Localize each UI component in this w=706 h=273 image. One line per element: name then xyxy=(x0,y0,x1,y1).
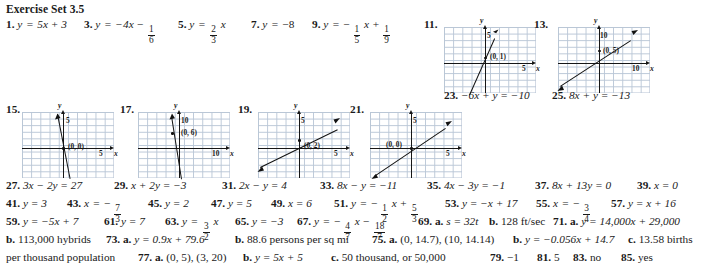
answer-item-7: 7. y = −8 xyxy=(251,18,294,30)
fraction-denominator: 3 xyxy=(411,214,418,225)
answer-item-47: 47. y = 5 xyxy=(211,197,252,209)
answer-text: y = −5x + 7 xyxy=(23,215,79,227)
answer-text: −1 xyxy=(507,251,519,263)
answer-item-79: 79. −1 xyxy=(490,251,519,263)
answer-text: y = 5x + 5 xyxy=(255,251,303,263)
problem-part: b. xyxy=(6,233,15,245)
x-axis-tick-label: 10 xyxy=(632,64,639,73)
equation-tail: x xyxy=(213,215,218,227)
y-axis-tick-label: 10 xyxy=(600,31,607,40)
problem-number: 1. xyxy=(6,18,14,30)
answer-item-69b: b. 128 ft/sec xyxy=(489,215,545,227)
answer-text: y = 0.9x + 79.6 xyxy=(134,233,204,245)
problem-number: 27. xyxy=(6,179,20,191)
answer-item-77c: c. 50 thousand, or 50,000 xyxy=(331,251,446,263)
intercept-point xyxy=(410,147,413,150)
answer-item-49: 49. x = 6 xyxy=(271,197,312,209)
equation-tail: x xyxy=(221,18,226,30)
problem-number: 35. xyxy=(427,179,441,191)
graph-label: 13. xyxy=(534,18,548,30)
answer-text: 8x + y = −13 xyxy=(569,89,630,101)
answer-text: 128 ft/sec xyxy=(501,215,545,227)
fraction-numerator: 2 xyxy=(210,25,217,34)
problem-number: 9. xyxy=(312,18,320,30)
answer-text: y = x + 16 xyxy=(628,197,676,209)
answer-key-page: Exercise Set 3.5 1. y = 5x + 3 3. y = −4… xyxy=(0,0,706,273)
intercept-point xyxy=(484,57,487,60)
fraction-numerator: 1 xyxy=(354,25,361,34)
answer-text: yes xyxy=(638,251,653,263)
fraction-numerator: 5 xyxy=(411,204,418,213)
answer-text: y = 14,000x + 29,000 xyxy=(581,215,680,227)
line-arrow-icon xyxy=(167,113,178,124)
answer-item-61: 61. y = 7 xyxy=(104,215,145,227)
equation-lhs: y xyxy=(351,197,356,209)
problem-number: 75. a. xyxy=(372,233,397,245)
equation-tail: x − xyxy=(355,215,370,227)
answer-item-53: 53. y = −x + 17 xyxy=(445,197,517,209)
answer-item-3: 3. y = −4x − 1 6 xyxy=(84,18,156,46)
answer-text: x = 0 xyxy=(654,179,678,191)
problem-number: 39. xyxy=(637,179,651,191)
answer-text: 4x − 3y = −1 xyxy=(444,179,505,191)
problem-number: 5. xyxy=(178,18,186,30)
fraction-denominator: 9 xyxy=(383,35,390,46)
answer-text: 8x + 13y = 0 xyxy=(552,179,611,191)
answer-item-35: 35. 4x − 3y = −1 xyxy=(427,179,505,191)
graph-label: 21. xyxy=(350,103,364,115)
answer-item-37: 37. 8x + 13y = 0 xyxy=(535,179,611,191)
problem-number: 31. xyxy=(222,179,236,191)
answer-text: y = 2 xyxy=(165,197,189,209)
answer-text: x + 2y = −3 xyxy=(131,179,187,191)
x-axis-tick-label: 5 xyxy=(99,149,103,158)
answer-item-65: 65. y = −3 xyxy=(235,215,284,227)
equation-tail: x + xyxy=(392,197,407,209)
answer-item-45: 45. y = 2 xyxy=(148,197,189,209)
fraction-numerator: 3 xyxy=(583,204,590,213)
x-axis xyxy=(444,63,532,64)
answer-text: 13.58 births xyxy=(639,233,693,245)
problem-part: b. xyxy=(513,233,522,245)
intercept-label: (0, 0) xyxy=(68,142,84,151)
graph-label: 15. xyxy=(6,103,20,115)
equation-tail: x + xyxy=(364,18,379,30)
problem-number: 45. xyxy=(148,197,162,209)
answer-text: −6x + y = −10 xyxy=(461,89,530,101)
problem-number: 85. xyxy=(621,251,635,263)
equation-sign: − xyxy=(573,197,579,209)
problem-number: 59. xyxy=(6,215,20,227)
y-axis-tick-label: 5 xyxy=(66,116,70,125)
answer-item-85: 85. yes xyxy=(621,251,653,263)
graph-label: 17. xyxy=(120,103,134,115)
x-axis-tick-label: 10 xyxy=(212,149,219,158)
answer-item-1: 1. y = 5x + 3 xyxy=(6,18,67,30)
answer-item-71b: b. 113,000 hybrids xyxy=(6,233,91,245)
x-axis-label: x xyxy=(462,149,466,158)
fraction: 2 3 xyxy=(210,25,217,46)
answer-item-69a: 69. a. s = 32t xyxy=(418,215,478,227)
problem-number: 57. xyxy=(611,197,625,209)
problem-part: b. xyxy=(235,233,244,245)
problem-number: 25. xyxy=(552,89,566,101)
y-axis xyxy=(411,114,412,178)
y-axis-label: y xyxy=(406,101,409,110)
answer-item-23: 23. −6x + y = −10 xyxy=(444,89,530,101)
x-axis-label: x xyxy=(114,149,118,158)
line-arrow-icon xyxy=(490,29,500,39)
fraction-2: 1 9 xyxy=(383,25,390,46)
equation-lhs: y xyxy=(17,18,22,30)
answer-item-33: 33. 8x − y = −11 xyxy=(320,179,397,191)
problem-number: 23. xyxy=(444,89,458,101)
equation-sign: − xyxy=(371,197,377,209)
x-axis-label: x xyxy=(650,64,654,73)
answer-text: per thousand population xyxy=(6,251,115,263)
problem-number: 49. xyxy=(271,197,285,209)
line-arrow-icon-left xyxy=(257,162,269,174)
answer-item-73b: b. 88.6 persons per sq mi xyxy=(235,233,349,245)
intercept-point xyxy=(62,147,65,150)
y-axis-arrow-icon xyxy=(483,25,487,29)
equation-lhs: y xyxy=(95,18,100,30)
fraction-numerator: 3 xyxy=(203,222,210,231)
fraction-numerator: 1 xyxy=(148,25,155,34)
answer-text: 3x − 2y = 27 xyxy=(23,179,82,191)
